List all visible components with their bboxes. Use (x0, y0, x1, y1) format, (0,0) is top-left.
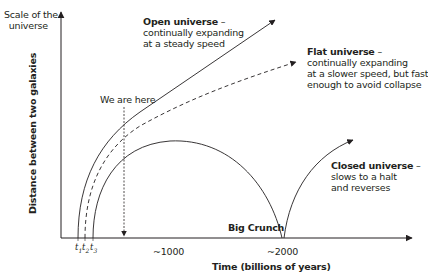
big-crunch-label: Big Crunch (228, 222, 284, 233)
closed-line2: and reverses (331, 182, 421, 193)
open-universe-annotation: Open universe – continually expanding at… (143, 16, 244, 49)
flat-line1: continually expanding (307, 57, 428, 68)
time-mark-2000: ~2000 (267, 246, 298, 257)
flat-line2: at a slower speed, but fast (307, 68, 428, 79)
open-line1: continually expanding (143, 27, 244, 38)
open-universe-title: Open universe (143, 16, 218, 27)
tick-label-t2: t2 (82, 242, 89, 254)
closed-line1: slows to a halt (331, 171, 421, 182)
flat-universe-title: Flat universe (307, 46, 375, 57)
open-dash: – (218, 16, 225, 27)
scale-of-universe-label: Scale of the universe (4, 9, 48, 31)
flat-dash: – (375, 46, 382, 57)
x-axis-label: Time (billions of years) (212, 261, 331, 272)
scale-label-line2: universe (4, 20, 48, 31)
closed-universe-annotation: Closed universe – slows to a halt and re… (331, 160, 421, 193)
time-mark-1000: ~1000 (153, 246, 184, 257)
flat-universe-curve (85, 62, 296, 238)
y-axis-label: Distance between two galaxies (27, 53, 38, 214)
scale-label-line1: Scale of the (4, 9, 48, 20)
tick-label-t3: t3 (90, 242, 97, 254)
we-are-here-label: We are here (100, 94, 155, 105)
closed-universe-title: Closed universe (331, 160, 413, 171)
open-universe-curve (78, 20, 275, 238)
flat-line3: enough to avoid collapse (307, 79, 428, 90)
open-line2: at a steady speed (143, 38, 244, 49)
flat-universe-annotation: Flat universe – continually expanding at… (307, 46, 428, 90)
closed-dash: – (413, 160, 420, 171)
